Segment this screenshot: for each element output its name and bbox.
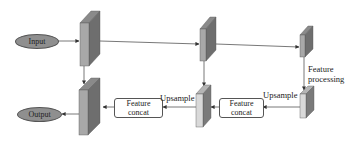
arrow-enc2-to-enc3	[216, 44, 299, 47]
input-node: Input	[15, 34, 59, 49]
concat-left-line2: concat	[115, 108, 162, 117]
feature-concat-left: Feature concat	[114, 98, 163, 118]
concat-right-line2: concat	[220, 108, 263, 117]
feature-block-enc3	[300, 26, 313, 57]
feature-concat-right: Feature concat	[219, 98, 264, 118]
feature-processing-label-line1: Feature	[308, 64, 334, 74]
concat-right-line1: Feature	[220, 99, 263, 108]
feature-block-enc1	[80, 11, 100, 66]
output-node: Output	[17, 107, 62, 122]
feature-block-dec2	[196, 85, 211, 127]
feature-block-dec1	[79, 78, 100, 135]
output-label: Output	[28, 110, 50, 119]
upsample-label-right: Upsample	[263, 90, 297, 100]
feature-processing-label-line2: processing	[308, 74, 344, 84]
diagram-graphics	[0, 0, 355, 142]
concat-left-line1: Feature	[115, 99, 162, 108]
input-label: Input	[29, 37, 46, 46]
feature-block-dec3	[300, 86, 314, 118]
upsample-label-left: Upsample	[160, 93, 194, 103]
arrow-enc1-to-enc2	[100, 41, 199, 44]
architecture-diagram: Input Output Feature concat Feature conc…	[0, 0, 355, 142]
feature-block-enc2	[200, 17, 216, 61]
